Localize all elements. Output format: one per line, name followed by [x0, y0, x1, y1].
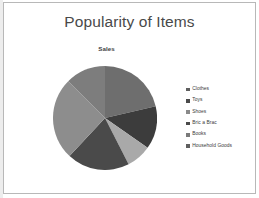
legend-item-label: Toys: [192, 98, 202, 103]
legend-swatch-icon: [186, 144, 190, 148]
slide-canvas: Popularity of Items Sales ClothesToysSho…: [0, 0, 259, 198]
legend-item-label: Shoes: [192, 110, 206, 115]
pie-svg: [53, 66, 157, 170]
legend-item-label: Books: [192, 132, 206, 137]
pie-chart[interactable]: Sales ClothesToysShoesBric a BracBooksHo…: [14, 40, 246, 185]
legend-swatch-icon: [186, 99, 190, 103]
legend-item[interactable]: Clothes: [186, 84, 248, 95]
legend-swatch-icon: [186, 133, 190, 137]
legend-swatch-icon: [186, 88, 190, 92]
legend-item[interactable]: Toys: [186, 95, 248, 106]
legend-item[interactable]: Books: [186, 129, 248, 140]
legend-item-label: Clothes: [192, 87, 209, 92]
legend-item-label: Bric a Brac: [192, 121, 216, 126]
chart-title: Sales: [14, 45, 199, 52]
legend-item[interactable]: Household Goods: [186, 140, 248, 151]
page-title: Popularity of Items: [0, 13, 259, 31]
pie-graphic[interactable]: [53, 66, 157, 170]
legend-swatch-icon: [186, 110, 190, 114]
legend-swatch-icon: [186, 122, 190, 126]
chart-legend: ClothesToysShoesBric a BracBooksHousehol…: [186, 84, 248, 152]
legend-item-label: Household Goods: [192, 144, 232, 149]
pie-slice-group: [53, 66, 157, 170]
legend-item[interactable]: Shoes: [186, 107, 248, 118]
legend-item[interactable]: Bric a Brac: [186, 118, 248, 129]
